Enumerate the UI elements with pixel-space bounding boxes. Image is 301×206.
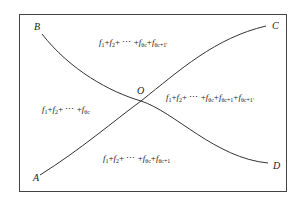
region-formula-right: f1+f2+ ⋯ +fθc+fθc+1+fθc+1' — [166, 92, 254, 102]
region-formula-top: f1+f2+ ⋯ +fθc+fθc+1' — [99, 37, 167, 47]
subscript: θc+1' — [154, 42, 167, 48]
subscript: θc — [84, 109, 90, 115]
point-label-d: D — [273, 161, 280, 171]
region-formula-bottom: f1+f2+ ⋯ +fθc+fθc+1 — [103, 153, 170, 163]
region-formula-left: f1+f2+ ⋯ +fθc — [42, 104, 90, 114]
point-label-c: C — [272, 21, 279, 31]
diagram-canvas — [0, 0, 301, 206]
operator: + ⋯ + — [58, 104, 82, 114]
operator: + ⋯ + — [182, 92, 206, 102]
point-label-b: B — [34, 22, 40, 32]
subscript: θc+1 — [221, 97, 233, 103]
subscript: θc+1 — [158, 158, 170, 164]
operator: + ⋯ + — [115, 37, 139, 47]
point-label-a: A — [33, 173, 39, 183]
subscript: θc+1' — [241, 97, 254, 103]
operator: + ⋯ + — [119, 153, 143, 163]
intersection-label-o: O — [137, 86, 144, 96]
